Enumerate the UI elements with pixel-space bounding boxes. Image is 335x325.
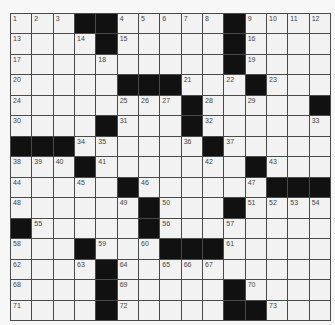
crossword-cell[interactable]	[118, 157, 138, 176]
crossword-cell[interactable]: 36	[182, 137, 202, 156]
crossword-cell[interactable]	[54, 116, 74, 135]
crossword-cell[interactable]	[75, 219, 95, 238]
crossword-cell[interactable]	[246, 116, 266, 135]
crossword-cell[interactable]: 19	[246, 55, 266, 74]
crossword-cell[interactable]	[160, 280, 180, 299]
crossword-cell[interactable]: 54	[310, 198, 330, 217]
crossword-cell[interactable]: 49	[118, 198, 138, 217]
crossword-cell[interactable]: 6	[160, 14, 180, 33]
crossword-cell[interactable]: 66	[182, 260, 202, 279]
crossword-cell[interactable]	[224, 260, 244, 279]
crossword-cell[interactable]: 9	[246, 14, 266, 33]
crossword-cell[interactable]	[203, 55, 223, 74]
crossword-cell[interactable]	[288, 239, 308, 258]
crossword-cell[interactable]	[310, 239, 330, 258]
crossword-cell[interactable]	[224, 96, 244, 115]
crossword-cell[interactable]: 22	[224, 75, 244, 94]
crossword-cell[interactable]	[310, 137, 330, 156]
crossword-cell[interactable]	[118, 55, 138, 74]
crossword-cell[interactable]: 58	[11, 239, 31, 258]
crossword-cell[interactable]	[54, 198, 74, 217]
crossword-cell[interactable]: 41	[96, 157, 116, 176]
crossword-cell[interactable]	[160, 157, 180, 176]
crossword-cell[interactable]	[246, 260, 266, 279]
crossword-cell[interactable]	[139, 137, 159, 156]
crossword-cell[interactable]	[118, 239, 138, 258]
crossword-cell[interactable]	[203, 34, 223, 53]
crossword-cell[interactable]	[32, 116, 52, 135]
crossword-cell[interactable]	[182, 178, 202, 197]
crossword-cell[interactable]	[182, 301, 202, 320]
crossword-cell[interactable]	[139, 301, 159, 320]
crossword-cell[interactable]: 64	[118, 260, 138, 279]
crossword-cell[interactable]	[32, 55, 52, 74]
crossword-cell[interactable]: 39	[32, 157, 52, 176]
crossword-cell[interactable]	[246, 137, 266, 156]
crossword-cell[interactable]	[160, 34, 180, 53]
crossword-cell[interactable]	[288, 219, 308, 238]
crossword-cell[interactable]	[54, 280, 74, 299]
crossword-cell[interactable]	[288, 260, 308, 279]
crossword-cell[interactable]	[54, 96, 74, 115]
crossword-cell[interactable]: 15	[118, 34, 138, 53]
crossword-cell[interactable]	[288, 34, 308, 53]
crossword-cell[interactable]	[288, 116, 308, 135]
crossword-cell[interactable]	[288, 55, 308, 74]
crossword-cell[interactable]	[139, 34, 159, 53]
crossword-cell[interactable]: 3	[54, 14, 74, 33]
crossword-cell[interactable]	[288, 301, 308, 320]
crossword-cell[interactable]: 14	[75, 34, 95, 53]
crossword-cell[interactable]: 71	[11, 301, 31, 320]
crossword-cell[interactable]	[310, 260, 330, 279]
crossword-cell[interactable]: 10	[267, 14, 287, 33]
crossword-cell[interactable]	[54, 239, 74, 258]
crossword-cell[interactable]: 61	[224, 239, 244, 258]
crossword-cell[interactable]	[288, 157, 308, 176]
crossword-cell[interactable]: 12	[310, 14, 330, 33]
crossword-cell[interactable]	[160, 301, 180, 320]
crossword-cell[interactable]: 13	[11, 34, 31, 53]
crossword-cell[interactable]	[96, 75, 116, 94]
crossword-cell[interactable]	[139, 157, 159, 176]
crossword-cell[interactable]	[96, 96, 116, 115]
crossword-cell[interactable]	[203, 301, 223, 320]
crossword-cell[interactable]	[139, 260, 159, 279]
crossword-cell[interactable]	[267, 96, 287, 115]
crossword-cell[interactable]	[203, 178, 223, 197]
crossword-cell[interactable]	[54, 219, 74, 238]
crossword-cell[interactable]: 48	[11, 198, 31, 217]
crossword-cell[interactable]	[32, 280, 52, 299]
crossword-cell[interactable]	[267, 137, 287, 156]
crossword-cell[interactable]	[182, 157, 202, 176]
crossword-cell[interactable]	[96, 219, 116, 238]
crossword-cell[interactable]: 62	[11, 260, 31, 279]
crossword-cell[interactable]: 27	[160, 96, 180, 115]
crossword-cell[interactable]: 53	[288, 198, 308, 217]
crossword-cell[interactable]	[203, 280, 223, 299]
crossword-cell[interactable]	[32, 178, 52, 197]
crossword-cell[interactable]	[54, 34, 74, 53]
crossword-cell[interactable]	[160, 137, 180, 156]
crossword-cell[interactable]	[246, 239, 266, 258]
crossword-cell[interactable]	[75, 198, 95, 217]
crossword-cell[interactable]: 32	[203, 116, 223, 135]
crossword-cell[interactable]: 69	[118, 280, 138, 299]
crossword-cell[interactable]	[139, 55, 159, 74]
crossword-cell[interactable]	[203, 198, 223, 217]
crossword-cell[interactable]	[224, 178, 244, 197]
crossword-cell[interactable]	[96, 198, 116, 217]
crossword-cell[interactable]: 40	[54, 157, 74, 176]
crossword-cell[interactable]	[182, 280, 202, 299]
crossword-cell[interactable]	[118, 219, 138, 238]
crossword-cell[interactable]: 30	[11, 116, 31, 135]
crossword-cell[interactable]: 23	[267, 75, 287, 94]
crossword-cell[interactable]: 43	[267, 157, 287, 176]
crossword-cell[interactable]: 57	[224, 219, 244, 238]
crossword-cell[interactable]	[310, 55, 330, 74]
crossword-cell[interactable]: 7	[182, 14, 202, 33]
crossword-cell[interactable]	[267, 219, 287, 238]
crossword-cell[interactable]	[288, 96, 308, 115]
crossword-cell[interactable]: 18	[96, 55, 116, 74]
crossword-cell[interactable]: 42	[203, 157, 223, 176]
crossword-cell[interactable]: 26	[139, 96, 159, 115]
